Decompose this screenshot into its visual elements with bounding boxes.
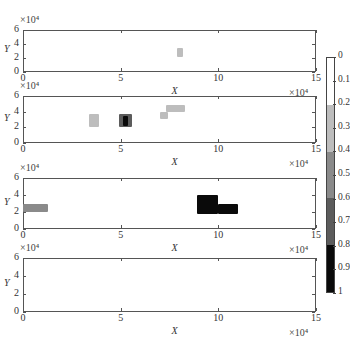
colorbar-tick-mark [333,199,336,200]
y-tick-mark [23,58,26,59]
colorbar-tick-label: 0.9 [338,262,350,272]
x-exponent-label: ×10⁴ [289,244,308,255]
x-tick-mark-top [121,30,122,33]
y-axis-label: Y [4,112,10,123]
y-tick-label: 4 [9,188,19,199]
plot-panel-1 [23,30,316,72]
x-tick-mark-top [23,30,24,33]
heat-region [166,105,186,111]
y-tick-label: 6 [9,89,19,100]
plot-panel-4 [23,258,316,312]
x-tick-mark [218,308,219,311]
heat-region [218,204,238,214]
y-tick-mark-right [312,127,315,128]
y-axis-label: Y [4,277,10,288]
colorbar-tick-mark [333,151,336,152]
x-tick-mark [23,225,24,228]
y-tick-mark-right [312,212,315,213]
x-tick-mark [316,68,317,71]
heat-region [89,114,99,127]
heat-region [23,204,48,213]
x-tick-mark [121,308,122,311]
x-tick-label: 5 [113,229,129,240]
x-tick-mark [218,225,219,228]
colorbar-tick-label: 0.2 [338,97,350,107]
y-tick-label: 4 [9,105,19,116]
x-tick-mark [316,308,317,311]
y-tick-mark-right [312,44,315,45]
x-tick-label: 5 [113,312,129,323]
y-tick-mark-right [312,258,315,259]
y-tick-mark-right [312,195,315,196]
colorbar-tick-mark [333,293,336,294]
x-axis-label: X [172,242,178,253]
heat-region [177,48,183,56]
x-tick-label: 0 [15,143,31,154]
y-exponent-label: ×10⁴ [20,162,39,173]
colorbar-tick-label: 0.7 [338,215,350,225]
colorbar-tick-label: 0.5 [338,168,350,178]
x-exponent-label: ×10⁴ [289,158,308,169]
y-tick-label: 4 [9,37,19,48]
y-tick-mark-right [312,30,315,31]
colorbar-tick-label: 1 [338,286,343,296]
x-tick-mark [316,139,317,142]
y-tick-label: 2 [9,205,19,216]
y-tick-mark [23,276,26,277]
heat-region [123,116,129,126]
y-tick-mark [23,212,26,213]
x-axis-label: X [172,156,178,167]
colorbar-tick-label: 0 [338,50,343,60]
plot-panel-2 [23,96,316,143]
y-axis-label: Y [4,43,10,54]
colorbar-tick-mark [333,222,336,223]
x-tick-mark-top [218,178,219,181]
x-tick-label: 15 [308,143,324,154]
y-tick-label: 2 [9,120,19,131]
x-tick-label: 5 [113,72,129,83]
y-tick-label: 6 [9,171,19,182]
x-tick-mark-top [23,178,24,181]
y-tick-label: 4 [9,269,19,280]
x-tick-mark-top [218,96,219,99]
x-tick-mark-top [121,258,122,261]
y-tick-mark [23,294,26,295]
y-tick-mark-right [312,112,315,113]
y-tick-mark-right [312,276,315,277]
x-tick-mark-top [316,178,317,181]
colorbar-tick-label: 0.1 [338,74,350,84]
heat-region [160,112,168,120]
x-tick-mark [218,68,219,71]
y-tick-mark [23,44,26,45]
y-axis-label: Y [4,196,10,207]
colorbar-tick-mark [333,57,336,58]
x-tick-label: 10 [210,229,226,240]
y-tick-mark [23,127,26,128]
x-tick-label: 15 [308,229,324,240]
y-exponent-label: ×10⁴ [20,14,39,25]
heat-region [197,195,218,214]
x-tick-mark [316,225,317,228]
x-tick-label: 10 [210,72,226,83]
x-tick-label: 10 [210,143,226,154]
x-exponent-label: ×10⁴ [289,327,308,338]
x-tick-mark [23,68,24,71]
y-tick-label: 2 [9,287,19,298]
colorbar-tick-label: 0.3 [338,121,350,131]
plot-panel-3 [23,178,316,229]
x-tick-mark-top [316,30,317,33]
x-tick-mark-top [218,258,219,261]
x-tick-mark [121,139,122,142]
colorbar-tick-mark [333,269,336,270]
x-tick-mark-top [316,258,317,261]
x-tick-mark-top [121,96,122,99]
colorbar-tick-label: 0.8 [338,239,350,249]
x-tick-label: 0 [15,312,31,323]
x-tick-label: 15 [308,312,324,323]
colorbar-tick-label: 0.4 [338,144,350,154]
x-tick-mark-top [121,178,122,181]
colorbar-tick-mark [333,175,336,176]
colorbar-tick-label: 0.6 [338,192,350,202]
y-tick-mark-right [312,294,315,295]
x-tick-label: 15 [308,72,324,83]
